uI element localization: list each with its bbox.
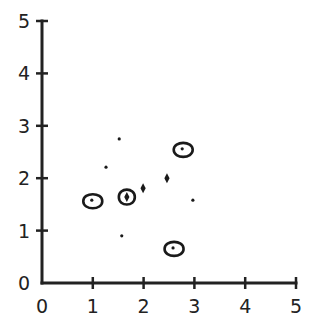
diamond-marker [124,192,129,202]
y-tick-label: 5 [18,10,30,32]
y-tick-label: 2 [18,167,30,189]
dot-marker [171,246,174,249]
data-markers [83,137,194,256]
x-tick-label: 3 [188,295,200,317]
axis-ticks: 012345012345 [18,10,302,317]
x-tick-label: 1 [87,295,99,317]
dot-marker [90,199,93,202]
scatter-chart: 012345012345 [0,0,314,330]
diamond-marker [164,173,169,183]
dot-marker [191,199,194,202]
dot-marker [104,166,107,169]
y-tick-label: 1 [18,220,30,242]
x-tick-label: 5 [290,295,302,317]
x-tick-label: 4 [239,295,251,317]
y-tick-label: 0 [18,272,30,294]
dot-marker [181,147,184,150]
x-tick-label: 2 [138,295,150,317]
dot-marker [120,234,123,237]
x-tick-label: 0 [36,295,48,317]
y-tick-label: 3 [18,115,30,137]
y-tick-label: 4 [18,62,30,84]
dot-marker [118,137,121,140]
diamond-marker [140,183,145,193]
